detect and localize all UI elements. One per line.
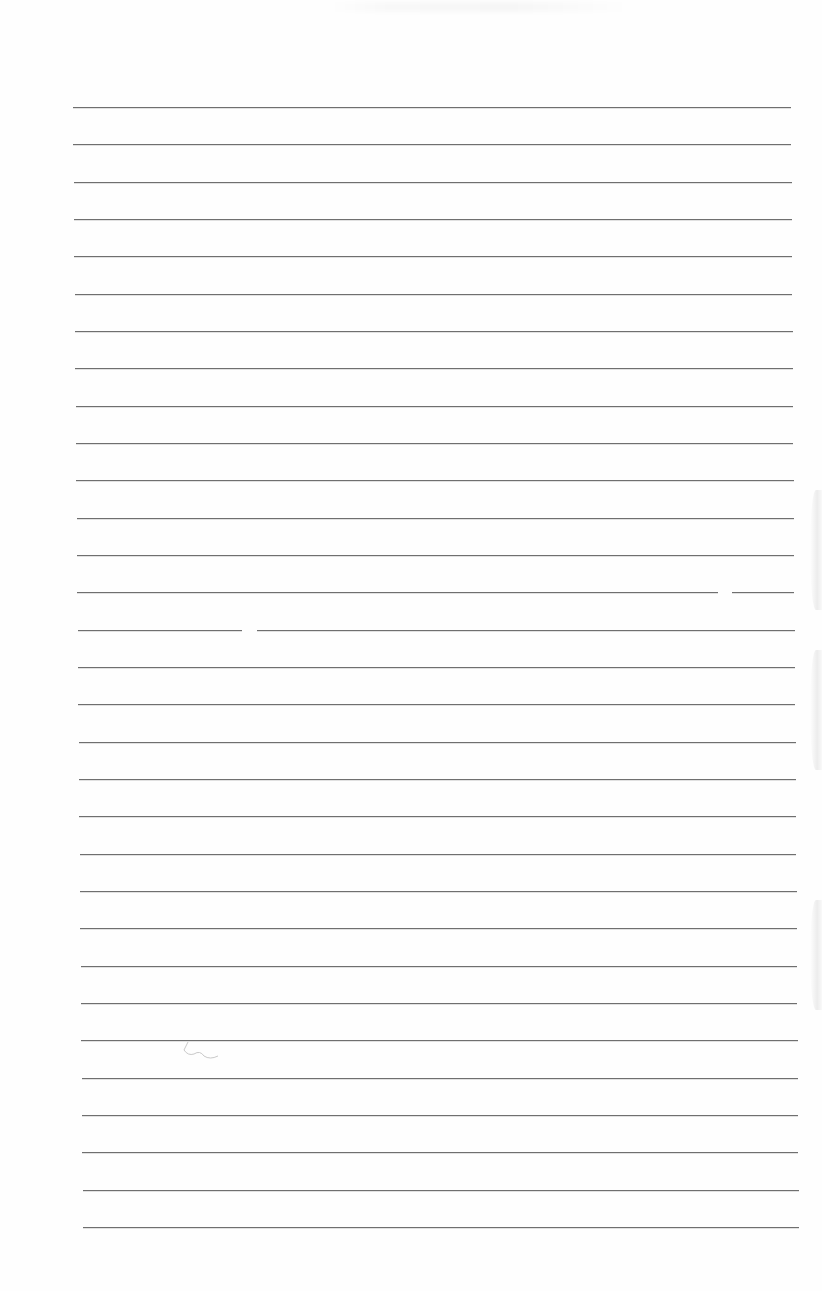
ruled-line [83,1227,799,1228]
ruled-line [77,592,794,593]
ruled-line [80,928,797,929]
ruled-line [78,667,795,668]
ruled-line [78,704,795,705]
ruled-line [76,480,793,481]
edge-shadow [810,900,822,1010]
ruled-line [81,966,797,967]
ruled-line [80,891,797,892]
pencil-smudge-icon [182,1040,222,1064]
ruled-line [77,555,794,556]
ruled-line [82,1078,798,1079]
ruled-line [74,256,792,257]
ruled-line [78,630,795,631]
ruled-line [81,1003,797,1004]
ruled-line [79,816,796,817]
edge-shadow [810,490,822,610]
ruled-line [73,144,791,145]
ruled-line [73,107,791,108]
bleed-through-shadow [330,2,630,12]
line-gap [242,629,257,633]
ruled-line [82,1152,798,1153]
lined-paper-sheet [0,0,822,1291]
ruled-line [79,742,796,743]
ruled-line [83,1190,799,1191]
ruled-line [74,219,792,220]
ruled-line [80,854,797,855]
ruled-line [75,294,793,295]
ruled-line [76,443,793,444]
ruled-line [75,368,793,369]
ruled-line [75,331,793,332]
ruled-line [77,518,794,519]
ruled-line [82,1115,798,1116]
ruled-line [74,182,792,183]
line-gap [718,591,732,595]
ruled-line [79,779,796,780]
ruled-line [76,406,793,407]
edge-shadow [810,650,822,770]
